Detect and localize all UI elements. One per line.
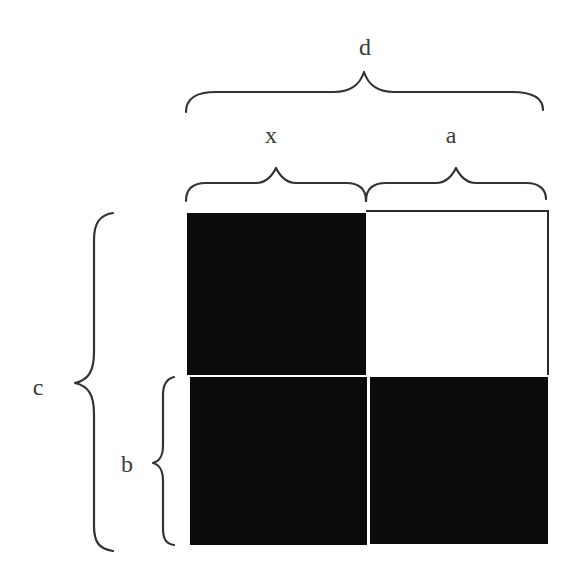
label-d: d <box>359 35 371 59</box>
brace-d <box>186 72 543 112</box>
brace-x <box>186 168 366 201</box>
label-c: c <box>33 375 44 399</box>
label-a: a <box>446 123 457 147</box>
cell-top-right <box>366 210 549 375</box>
brace-c <box>75 213 113 551</box>
cell-top-left <box>187 213 366 375</box>
diagram-canvas: d x a c b <box>0 0 575 583</box>
label-x: x <box>265 123 277 147</box>
cell-bottom-left <box>190 377 367 545</box>
label-b: b <box>121 452 133 476</box>
cell-bottom-right <box>370 377 548 544</box>
brace-b <box>153 377 174 545</box>
brace-a <box>366 168 546 201</box>
